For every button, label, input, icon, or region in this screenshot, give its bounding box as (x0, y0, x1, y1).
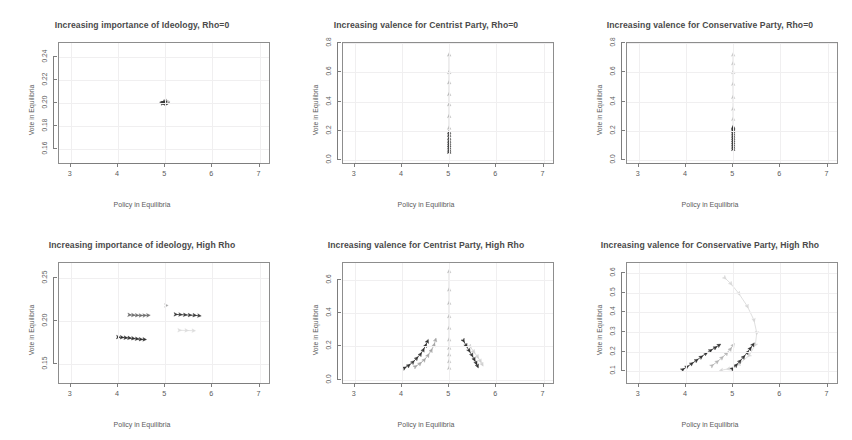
x-tick-label: 5 (446, 389, 450, 398)
x-tick-label: 5 (162, 389, 166, 398)
gridline-horizontal (627, 160, 837, 161)
gridline-horizontal (343, 380, 553, 381)
y-tick-label: 0.8 (609, 37, 616, 46)
x-axis-line (638, 163, 827, 164)
panel-1: Increasing importance of Ideology, Rho=0… (0, 0, 284, 220)
x-tick-label: 6 (777, 169, 781, 178)
data-point-marker (689, 361, 694, 366)
x-tick-label: 6 (493, 389, 497, 398)
x-tick-label: 3 (352, 169, 356, 178)
gridline-horizontal (59, 149, 269, 150)
y-tick-label: 0.8 (325, 37, 332, 46)
gridline-horizontal (59, 364, 269, 365)
x-tick-mark (827, 163, 828, 167)
x-tick-label: 3 (636, 169, 640, 178)
data-point-marker (713, 345, 718, 350)
y-tick-label: 0.4 (609, 307, 616, 316)
y-tick-label: 0.6 (325, 274, 332, 283)
x-tick-label: 3 (636, 389, 640, 398)
y-tick-label: 0.20 (41, 314, 48, 327)
x-tick-label: 7 (541, 389, 545, 398)
y-axis-line (337, 42, 338, 159)
data-point-marker (752, 318, 756, 322)
x-tick-label: 4 (115, 389, 119, 398)
x-axis-line (354, 163, 543, 164)
data-point-marker (461, 338, 466, 343)
gridline-vertical (355, 263, 356, 383)
x-axis-line (638, 383, 827, 384)
x-tick-label: 5 (446, 169, 450, 178)
panel-5-plot-area (342, 262, 554, 384)
x-axis-line (70, 383, 259, 384)
panel-4-plot-area (58, 262, 270, 384)
gridline-horizontal (59, 80, 269, 81)
panel-6-title: Increasing valence for Conservative Part… (568, 240, 852, 250)
gridline-horizontal (59, 321, 269, 322)
panel-5-title: Increasing valence for Centrist Party, H… (284, 240, 568, 250)
y-tick-label: 0.2 (325, 125, 332, 134)
gridline-horizontal (627, 72, 837, 73)
figure-grid: Increasing importance of Ideology, Rho=0… (0, 0, 852, 440)
gridline-horizontal (627, 273, 837, 274)
data-point-marker (480, 362, 485, 367)
panel-2: Increasing valence for Centrist Party, R… (284, 0, 568, 220)
panel-6-ylabel: Vote in Equilibria (596, 305, 603, 356)
y-tick-label: 0.2 (609, 125, 616, 134)
data-point-marker (745, 304, 750, 309)
gridline-vertical (496, 43, 497, 163)
x-axis-line (70, 163, 259, 164)
panel-5-xlabel: Policy in Equilibria (284, 421, 568, 428)
gridline-vertical (449, 43, 450, 163)
panel-3: Increasing valence for Conservative Part… (568, 0, 852, 220)
panel-4-title: Increasing importance of ideology, High … (0, 240, 284, 250)
gridline-vertical (639, 43, 640, 163)
gridline-horizontal (343, 346, 553, 347)
gridline-vertical (780, 263, 781, 383)
y-tick-label: 0.0 (325, 154, 332, 163)
y-axis-line (337, 279, 338, 379)
panel-3-series-layer (627, 43, 837, 163)
y-tick-label: 0.5 (609, 287, 616, 296)
data-point-marker (128, 313, 132, 317)
gridline-vertical (686, 263, 687, 383)
gridline-vertical (686, 43, 687, 163)
gridline-horizontal (627, 332, 837, 333)
x-tick-label: 4 (683, 169, 687, 178)
gridline-horizontal (343, 160, 553, 161)
x-tick-label: 4 (399, 169, 403, 178)
y-tick-label: 0.18 (41, 119, 48, 132)
y-tick-label: 0.1 (609, 366, 616, 375)
x-tick-label: 6 (493, 169, 497, 178)
gridline-horizontal (627, 312, 837, 313)
panel-1-plot-area (58, 42, 270, 164)
x-tick-mark (543, 383, 544, 387)
y-tick-label: 0.16 (41, 142, 48, 155)
gridline-vertical (544, 263, 545, 383)
y-tick-label: 0.4 (325, 307, 332, 316)
y-tick-mark (53, 363, 57, 364)
panel-6-series-layer (627, 263, 837, 383)
panel-4-xlabel: Policy in Equilibria (0, 421, 284, 428)
x-tick-label: 7 (541, 169, 545, 178)
panel-2-series-layer (343, 43, 553, 163)
x-tick-mark (543, 163, 544, 167)
y-tick-label: 0.24 (41, 49, 48, 62)
gridline-horizontal (627, 131, 837, 132)
data-point-marker (413, 364, 418, 369)
panel-5-series-layer (343, 263, 553, 383)
panel-3-ylabel: Vote in Equilibria (596, 85, 603, 136)
gridline-vertical (733, 43, 734, 163)
x-tick-label: 5 (730, 169, 734, 178)
gridline-horizontal (59, 103, 269, 104)
x-tick-label: 6 (777, 389, 781, 398)
y-tick-mark (621, 159, 625, 160)
x-tick-mark (259, 163, 260, 167)
x-tick-label: 3 (352, 389, 356, 398)
series-path (404, 341, 427, 368)
data-point-marker (470, 353, 475, 358)
x-tick-mark (259, 383, 260, 387)
panel-2-xlabel: Policy in Equilibria (284, 201, 568, 208)
gridline-horizontal (59, 57, 269, 58)
gridline-vertical (496, 263, 497, 383)
x-tick-mark (827, 383, 828, 387)
